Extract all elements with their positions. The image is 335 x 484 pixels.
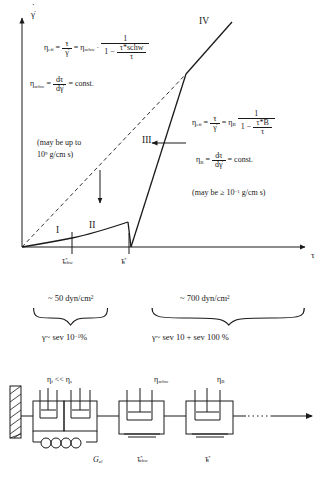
- x-axis-label: τ: [311, 251, 315, 260]
- tick-label-tau-b: τ*B: [121, 257, 125, 266]
- region-label-III: III: [142, 136, 152, 146]
- curve-region-III: [131, 74, 186, 247]
- model-label-eta-f: ηf << ηs: [47, 376, 72, 385]
- formula-right-line2: ηB = dτdγ̇ = const.: [196, 152, 253, 169]
- formula-right-line1: ηeff = τγ̇ = ηB 11 − τ*Bτ: [192, 110, 275, 136]
- note-left-line1: (may be up to: [37, 139, 81, 147]
- formula-left-line1: ηeff = τγ̇ = ηschw · 11 − τ*schwτ: [44, 35, 149, 61]
- y-axis-label: γ̇: [31, 10, 35, 19]
- region-label-II: II: [89, 221, 95, 231]
- brace-right-top-label: ~ 700 dyn/cm2: [180, 294, 230, 303]
- formula-left-line2: ηschw = dτdγ̇ = const.: [30, 76, 94, 93]
- dashpot-element-1: [33, 388, 64, 431]
- friction-element-schw: [119, 388, 164, 437]
- tick-label-tau-schw: τ*schw: [62, 257, 73, 266]
- model-label-tau-schw: τ*schw: [137, 455, 148, 464]
- brace-left: [34, 308, 108, 325]
- model-label-eta-b: ηB: [217, 376, 225, 385]
- region-label-IV: IV: [199, 17, 209, 27]
- wall-hatching: [10, 386, 21, 438]
- asymptote-dashed-line: [22, 74, 186, 247]
- region-label-I: I: [56, 226, 59, 236]
- dashpot-element-2: [64, 388, 97, 431]
- curve-region-I-II: [22, 222, 128, 247]
- mechanical-model: [0, 374, 335, 484]
- model-label-eta-schw: ηschw: [154, 376, 168, 385]
- brace-left-top-label: ~ 50 dyn/cm2: [48, 294, 94, 303]
- curve-region-IV: [186, 22, 232, 74]
- model-label-tau-b: τ*B: [205, 455, 209, 464]
- figure-root: γ̇ τ ηeff = τγ̇ = ηschw · 11 − τ*schwτ η…: [0, 0, 335, 484]
- brace-right: [152, 308, 304, 325]
- note-right: (may be ≥ 10−1 g/cm s): [192, 189, 265, 197]
- model-label-gel: Gel: [93, 456, 102, 465]
- brace-right-bottom-label: γ~ sev 10 + sev 100 %: [152, 333, 229, 342]
- spring-element: [33, 431, 97, 448]
- note-left-line2: 109 g/cm s): [37, 151, 73, 159]
- friction-element-b: [186, 388, 233, 437]
- brace-left-bottom-label: γ~ sev 10−1%: [42, 333, 87, 342]
